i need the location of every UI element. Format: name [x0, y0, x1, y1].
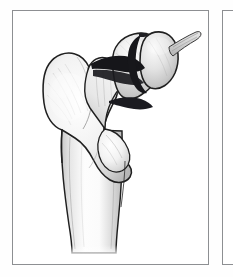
femoral-head-lateral-fragment [140, 32, 178, 89]
figure-sheet [0, 0, 233, 277]
figure-panel-b [222, 10, 233, 265]
figure-panel-a [12, 10, 209, 265]
ligamentum-teres-stump [169, 32, 201, 56]
panel-b-inner [223, 11, 233, 264]
panel-a-inner [13, 11, 208, 264]
proximal-femur-fracture-illustration [13, 11, 208, 264]
